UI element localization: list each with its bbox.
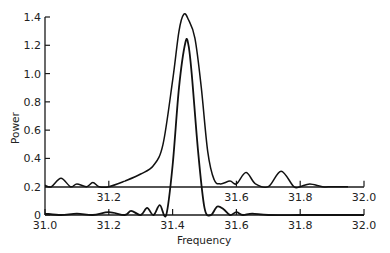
x-axis-title: Frequency [177, 234, 231, 246]
y-tick-label: 1.4 [24, 11, 42, 24]
y-tick-label: 0.6 [24, 124, 42, 137]
y-tick-label: 1.0 [24, 68, 42, 81]
x-tick-label: 31.4 [160, 219, 185, 232]
inner-tick-label: 32.0 [352, 191, 377, 204]
x-tick-label: 31.2 [97, 219, 122, 232]
series [45, 14, 364, 217]
broad-spectrum-line [45, 14, 348, 188]
y-ticks: 00.20.40.60.81.01.21.4 [24, 11, 51, 222]
x-ticks: 31.031.231.431.631.832.0 [33, 209, 377, 232]
y-tick-label: 0.4 [24, 152, 42, 165]
y-tick-label: 0.8 [24, 96, 42, 109]
x-tick-label: 32.0 [352, 219, 377, 232]
power-spectrum-chart: 00.20.40.60.81.01.21.4 31.031.231.431.63… [0, 0, 390, 253]
inner-tick-label: 31.2 [97, 191, 122, 204]
y-tick-label: 0.2 [24, 181, 42, 194]
x-tick-label: 31.8 [288, 219, 313, 232]
y-axis-title: Power [9, 111, 21, 143]
x-tick-label: 31.6 [224, 219, 249, 232]
y-tick-label: 1.2 [24, 39, 42, 52]
inner-tick-label: 31.6 [224, 191, 249, 204]
x-tick-label: 31.0 [33, 219, 58, 232]
inner-tick-label: 31.8 [288, 191, 313, 204]
